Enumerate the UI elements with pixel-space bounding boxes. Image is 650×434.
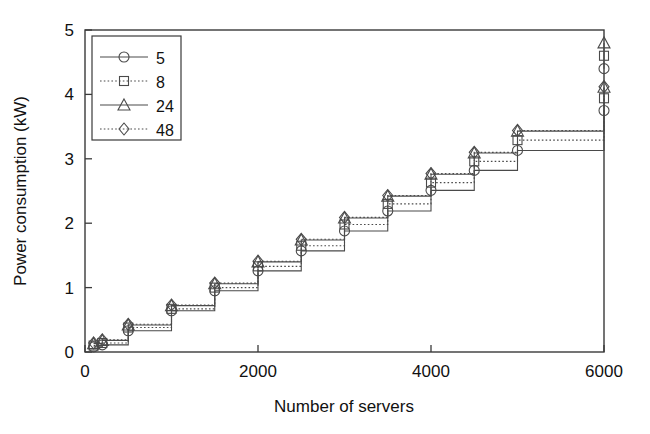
x-tick-labels: 0200040006000	[80, 362, 623, 381]
legend-label-5: 5	[156, 50, 165, 67]
legend: 582448	[92, 36, 181, 140]
legend-label-24: 24	[156, 98, 174, 115]
y-tick-label: 2	[65, 214, 74, 233]
y-tick-label: 4	[65, 85, 74, 104]
x-tick-label: 4000	[412, 362, 450, 381]
y-tick-label: 1	[65, 279, 74, 298]
y-axis-label: Power consumption (kW)	[11, 96, 30, 286]
y-tick-label: 5	[65, 21, 74, 40]
legend-label-8: 8	[156, 74, 165, 91]
x-tick-label: 6000	[585, 362, 623, 381]
y-tick-label: 0	[65, 343, 74, 362]
x-tick-label: 2000	[239, 362, 277, 381]
power-consumption-chart: 0200040006000 012345 Number of servers P…	[0, 0, 650, 434]
chart-svg: 0200040006000 012345 Number of servers P…	[0, 0, 650, 434]
x-axis-label: Number of servers	[274, 397, 414, 416]
y-tick-label: 3	[65, 150, 74, 169]
x-tick-label: 0	[80, 362, 89, 381]
y-tick-labels: 012345	[65, 21, 74, 362]
legend-label-48: 48	[156, 122, 174, 139]
